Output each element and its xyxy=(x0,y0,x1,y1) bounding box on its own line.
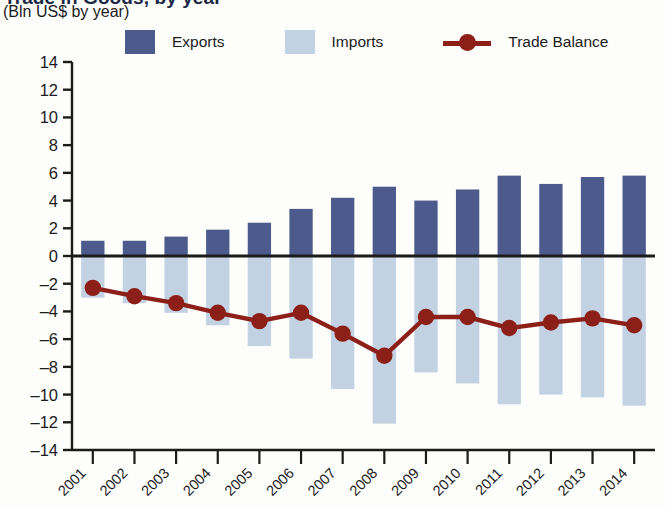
y-axis-ticks-group: 14121086420–2–4–6–8–10–12–14 xyxy=(30,53,72,459)
y-tick-label: –2 xyxy=(40,275,58,293)
x-tick-label: 2008 xyxy=(346,465,380,499)
y-tick-label: 4 xyxy=(49,192,58,210)
export-bar xyxy=(81,241,104,256)
x-tick-label: 2007 xyxy=(305,465,339,499)
export-bar xyxy=(123,241,146,256)
imports-bars-group xyxy=(81,256,646,424)
export-bar xyxy=(373,187,396,256)
export-bar xyxy=(623,176,646,256)
export-bar xyxy=(206,230,229,256)
chart-plot-area: 14121086420–2–4–6–8–10–12–14200120022003… xyxy=(0,0,665,509)
trade-balance-marker[interactable] xyxy=(501,320,517,336)
x-tick-label: 2005 xyxy=(221,465,255,499)
trade-balance-marker[interactable] xyxy=(418,309,434,325)
trade-balance-marker[interactable] xyxy=(334,325,350,341)
x-tick-label: 2013 xyxy=(555,465,589,499)
x-axis-ticks-group: 2001200220032004200520062007200820092010… xyxy=(55,450,634,499)
y-tick-label: 10 xyxy=(40,108,58,126)
y-tick-label: –10 xyxy=(30,386,58,404)
x-tick-label: 2009 xyxy=(388,465,422,499)
export-bar xyxy=(248,223,271,256)
trade-balance-marker[interactable] xyxy=(626,317,642,333)
export-bar xyxy=(498,176,521,256)
trade-balance-marker[interactable] xyxy=(85,280,101,296)
y-tick-label: 12 xyxy=(40,81,58,99)
import-bar xyxy=(331,256,354,389)
export-bar xyxy=(164,237,187,256)
y-tick-label: 0 xyxy=(49,247,58,265)
y-tick-label: 8 xyxy=(49,136,58,154)
y-tick-label: –8 xyxy=(40,358,58,376)
trade-balance-marker[interactable] xyxy=(168,295,184,311)
x-tick-label: 2012 xyxy=(513,465,547,499)
chart-svg: 14121086420–2–4–6–8–10–12–14200120022003… xyxy=(0,0,665,509)
export-bar xyxy=(581,177,604,256)
trade-balance-marker[interactable] xyxy=(126,288,142,304)
trade-balance-marker[interactable] xyxy=(376,348,392,364)
y-tick-label: –12 xyxy=(30,413,58,431)
trade-balance-marker[interactable] xyxy=(293,305,309,321)
trade-balance-marker[interactable] xyxy=(543,314,559,330)
export-bar xyxy=(289,209,312,256)
x-tick-label: 2010 xyxy=(430,465,464,499)
trade-balance-marker[interactable] xyxy=(459,309,475,325)
x-tick-label: 2011 xyxy=(472,465,505,498)
trade-balance-marker[interactable] xyxy=(210,305,226,321)
x-tick-label: 2001 xyxy=(55,465,89,499)
trade-balance-marker[interactable] xyxy=(251,313,267,329)
x-tick-label: 2003 xyxy=(138,465,172,499)
export-bar xyxy=(331,198,354,256)
export-bar xyxy=(539,184,562,256)
import-bar xyxy=(248,256,271,346)
exports-bars-group xyxy=(81,176,646,256)
trade-balance-marker[interactable] xyxy=(584,310,600,326)
y-tick-label: –6 xyxy=(40,330,58,348)
y-tick-label: 2 xyxy=(49,219,58,237)
import-bar xyxy=(581,256,604,397)
x-tick-label: 2006 xyxy=(263,465,297,499)
x-tick-label: 2014 xyxy=(596,465,630,499)
y-tick-label: 14 xyxy=(40,53,58,71)
export-bar xyxy=(414,201,437,256)
y-tick-label: –14 xyxy=(30,441,58,459)
export-bar xyxy=(456,189,479,256)
import-bar xyxy=(373,256,396,424)
x-tick-label: 2002 xyxy=(96,465,130,499)
y-tick-label: 6 xyxy=(49,164,58,182)
x-tick-label: 2004 xyxy=(180,465,214,499)
y-tick-label: –4 xyxy=(40,302,58,320)
